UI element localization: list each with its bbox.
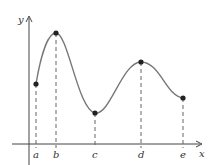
point-a bbox=[33, 81, 38, 86]
function-graph: y x a b c d e bbox=[0, 0, 215, 165]
drop-lines bbox=[36, 33, 183, 148]
function-curve bbox=[36, 33, 183, 113]
point-b bbox=[53, 30, 58, 35]
label-a: a bbox=[33, 149, 39, 160]
label-d: d bbox=[138, 149, 144, 160]
point-e bbox=[180, 95, 185, 100]
axes: y x bbox=[12, 14, 205, 165]
point-labels: a b c d e bbox=[33, 149, 186, 160]
label-e: e bbox=[180, 149, 186, 160]
label-b: b bbox=[53, 149, 59, 160]
y-axis-label: y bbox=[17, 14, 24, 25]
label-c: c bbox=[92, 149, 98, 160]
point-d bbox=[138, 59, 143, 64]
x-axis-label: x bbox=[199, 148, 205, 159]
point-c bbox=[92, 110, 97, 115]
